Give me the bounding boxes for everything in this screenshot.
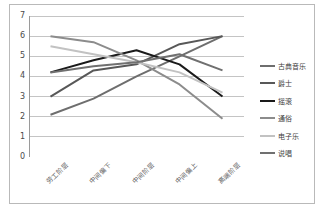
x-tick-label: 中间偏下 bbox=[86, 159, 113, 186]
series-lines bbox=[51, 36, 223, 119]
x-axis-labels: 劳工阶层中间偏下中间阶层中间偏上高端阶层 bbox=[29, 159, 244, 205]
chart-legend: 古典音乐爵士摇滚通俗电子乐说唱 bbox=[260, 57, 324, 162]
chart-canvas bbox=[29, 16, 244, 157]
x-tick-label: 中间阶层 bbox=[129, 159, 156, 186]
legend-item[interactable]: 摇滚 bbox=[260, 92, 324, 110]
legend-swatch-icon bbox=[260, 117, 275, 119]
series-line-0 bbox=[51, 36, 223, 115]
legend-label: 说唱 bbox=[278, 148, 292, 158]
legend-item[interactable]: 古典音乐 bbox=[260, 57, 324, 75]
legend-label: 通俗 bbox=[278, 113, 292, 123]
legend-swatch-icon bbox=[260, 152, 275, 154]
y-tick-label: 2 bbox=[20, 113, 25, 121]
y-tick-label: 7 bbox=[20, 12, 25, 20]
legend-label: 摇滚 bbox=[278, 96, 292, 106]
legend-swatch-icon bbox=[260, 100, 275, 102]
legend-label: 古典音乐 bbox=[278, 61, 306, 71]
x-tick-label: 中间偏上 bbox=[172, 159, 199, 186]
y-tick-label: 6 bbox=[20, 32, 25, 40]
legend-item[interactable]: 爵士 bbox=[260, 75, 324, 93]
y-tick-label: 5 bbox=[20, 52, 25, 60]
series-line-1 bbox=[51, 36, 223, 96]
legend-item[interactable]: 说唱 bbox=[260, 145, 324, 163]
legend-swatch-icon bbox=[260, 65, 275, 67]
legend-label: 电子乐 bbox=[278, 131, 299, 141]
series-line-2 bbox=[51, 50, 223, 96]
x-tick-label: 劳工阶层 bbox=[43, 159, 70, 186]
legend-item[interactable]: 电子乐 bbox=[260, 127, 324, 145]
chart-frame: 01234567 劳工阶层中间偏下中间阶层中间偏上高端阶层 古典音乐爵士摇滚通俗… bbox=[9, 4, 315, 204]
legend-item[interactable]: 通俗 bbox=[260, 110, 324, 128]
legend-swatch-icon bbox=[260, 82, 275, 84]
y-tick-label: 0 bbox=[20, 153, 25, 161]
y-tick-label: 4 bbox=[20, 72, 25, 80]
y-tick-label: 3 bbox=[20, 93, 25, 101]
legend-swatch-icon bbox=[260, 135, 275, 137]
y-tick-label: 1 bbox=[20, 133, 25, 141]
x-tick-label: 高端阶层 bbox=[215, 159, 242, 186]
legend-label: 爵士 bbox=[278, 78, 292, 88]
plot-area: 01234567 bbox=[29, 16, 244, 157]
